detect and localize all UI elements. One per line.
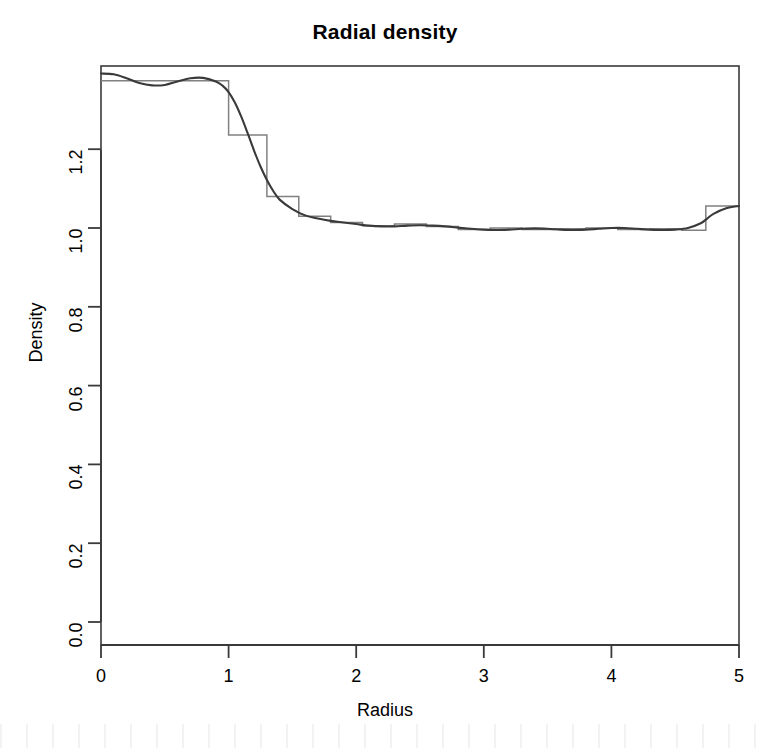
- y-tick-label: 0.2: [66, 544, 87, 590]
- x-axis-label: Radius: [0, 700, 770, 721]
- series-smooth-line: [101, 74, 739, 230]
- y-tick-label: 0.6: [66, 386, 87, 432]
- y-tick-label: 1.0: [66, 229, 87, 275]
- y-tick-label: 0.4: [66, 465, 87, 511]
- y-axis-label: Density: [26, 253, 47, 413]
- y-tick-label: 0.8: [66, 307, 87, 353]
- x-tick-label: 5: [719, 666, 759, 687]
- x-axis-ticks: [101, 645, 739, 658]
- plot-frame: [101, 66, 739, 645]
- x-tick-label: 1: [209, 666, 249, 687]
- y-axis-ticks: [88, 149, 101, 622]
- x-tick-label: 4: [591, 666, 631, 687]
- series-step-line: [101, 81, 739, 231]
- x-tick-label: 0: [81, 666, 121, 687]
- figure-canvas: Radial density 012345 0.00.20.40.60.81.0…: [0, 0, 770, 748]
- x-tick-label: 3: [464, 666, 504, 687]
- x-tick-label: 2: [336, 666, 376, 687]
- y-tick-label: 0.0: [66, 623, 87, 669]
- scan-artifact: [0, 724, 770, 748]
- y-tick-label: 1.2: [66, 150, 87, 196]
- plot-area: [0, 0, 770, 748]
